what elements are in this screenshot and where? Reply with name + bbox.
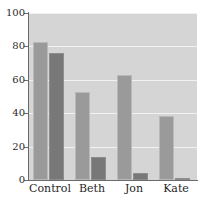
clipped-caption-remnant (0, 0, 201, 5)
bar (91, 157, 106, 180)
bar (133, 173, 148, 181)
x-axis-label: Jon (113, 183, 155, 194)
x-axis-line (28, 180, 198, 181)
y-axis-line (28, 12, 29, 181)
bar-chart: 020406080100 ControlBethJonKate (0, 0, 201, 209)
y-axis-tick-label: 80 (12, 41, 25, 51)
x-axis-label: Beth (71, 183, 113, 194)
bar (175, 178, 190, 181)
y-axis-tick-label: 60 (12, 75, 25, 85)
gridline (29, 13, 197, 14)
bar (33, 42, 48, 180)
bar (75, 92, 90, 181)
gridline (29, 46, 197, 47)
x-axis-label: Control (29, 183, 71, 194)
y-axis-tick-label: 0 (19, 175, 25, 185)
y-axis-tick-label: 20 (12, 142, 25, 152)
y-axis-tick-label: 100 (6, 8, 25, 18)
bar (117, 75, 132, 180)
bar (49, 53, 64, 180)
x-axis-label: Kate (155, 183, 197, 194)
y-axis-tick-label: 40 (12, 108, 25, 118)
bar (159, 116, 174, 180)
